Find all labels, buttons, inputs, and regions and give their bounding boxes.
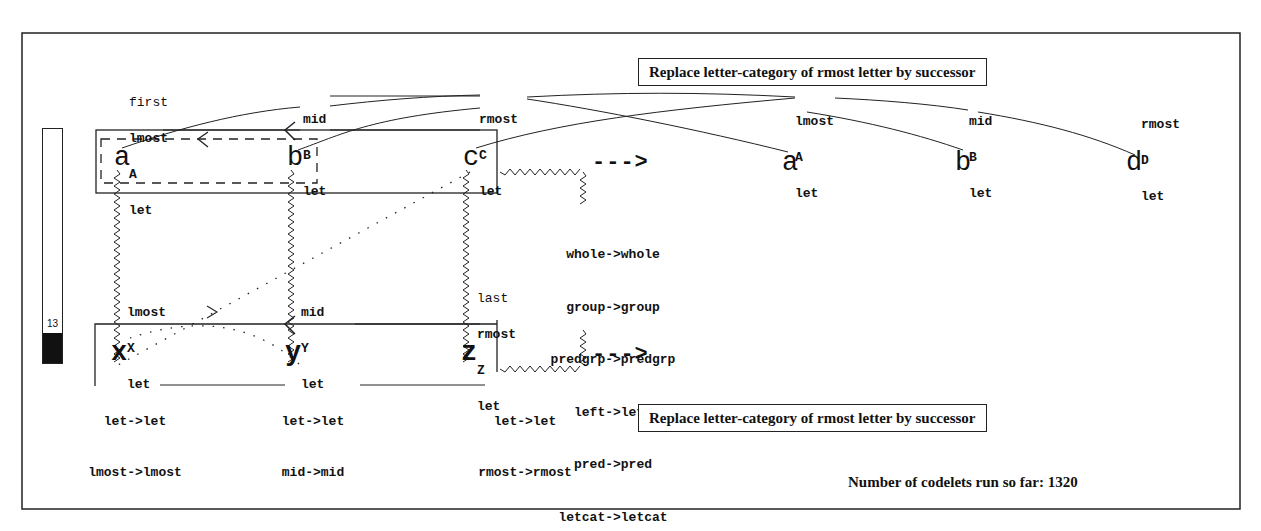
desc-label: D [1141,155,1180,167]
bond-mapping-x: let->let lmost->lmost [60,379,210,515]
bottom-rule-box: Replace letter-category of rmost letter … [638,404,987,432]
temperature-value: 13 [43,318,62,329]
desc-label: B [303,150,334,162]
desc-label: lmost [127,307,166,319]
desc-label: lmost [795,116,834,128]
temperature-thermometer: 13 [42,128,63,364]
letter-modified-a: a [782,150,798,177]
desc-label: B [969,152,1000,164]
desc-initial-a: first lmost A let [129,73,168,241]
mapping-group: group->group [528,299,698,317]
letter-target-x: x [111,340,127,367]
top-rule-text: Replace letter-category of rmost letter … [649,64,976,80]
desc-modified-b: mid B let [969,92,1000,224]
desc-label: let [479,186,518,198]
desc-label: rmost [1141,119,1180,131]
desc-initial-b: mid B let [303,90,334,222]
bond-mapping-label: mid->mid [258,464,368,481]
desc-label: rmost [479,114,518,126]
desc-label: let [795,188,834,200]
bond-mapping-label: let->let [455,413,595,430]
desc-label: let [303,186,334,198]
bottom-rule-text: Replace letter-category of rmost letter … [649,410,976,426]
letter-initial-c: c [463,145,479,172]
desc-label: A [129,169,168,181]
desc-label: mid [303,114,334,126]
arrow-initial-to-modified: ---> [592,150,649,175]
bond-mapping-label: let->let [258,413,368,430]
desc-label: last [477,293,516,305]
codelet-count-status: Number of codelets run so far: 1320 [848,474,1078,491]
desc-label: let [969,188,1000,200]
group-correspondence-bottom [580,172,586,204]
correspondence-b-y [288,170,294,362]
dotted-bond-c-x [118,172,470,365]
correspondence-a-x [114,170,120,362]
desc-label: rmost [477,329,516,341]
letter-initial-a: a [114,145,130,172]
desc-label: C [479,150,518,162]
desc-label: Y [301,343,332,355]
letter-target-z: z [461,340,477,367]
temperature-fill [43,333,62,363]
desc-label: let [1141,191,1180,203]
correspondence-c-z [463,170,469,362]
letter-initial-b: b [287,145,303,172]
bond-mapping-label: lmost->lmost [60,464,210,481]
top-rule-box: Replace letter-category of rmost letter … [638,58,987,86]
letter-modified-b: b [955,150,971,177]
desc-initial-c: rmost C let [479,90,518,222]
desc-modified-d: rmost D let [1141,95,1180,227]
letter-target-y: y [285,340,301,367]
bond-mapping-label: rmost->rmost [455,464,595,481]
bond-mapping-y: let->let mid->mid [258,379,368,515]
desc-label: mid [969,116,1000,128]
desc-label: lmost [129,133,168,145]
copycat-workspace: 13 Replace letter-category of rmost lett… [0,0,1261,531]
mapping-whole: whole->whole [528,246,698,264]
desc-label: X [127,343,166,355]
desc-label: let [129,205,168,217]
arrow-target-to-answer: ---> [592,342,649,367]
desc-label: first [129,97,168,109]
desc-label: A [795,152,834,164]
desc-label: mid [301,307,332,319]
bond-mapping-z: let->let rmost->rmost [455,379,595,515]
letter-modified-d: d [1126,150,1142,177]
bond-mapping-label: let->let [60,413,210,430]
desc-label: Z [477,365,516,377]
desc-modified-a: lmost A let [795,92,834,224]
